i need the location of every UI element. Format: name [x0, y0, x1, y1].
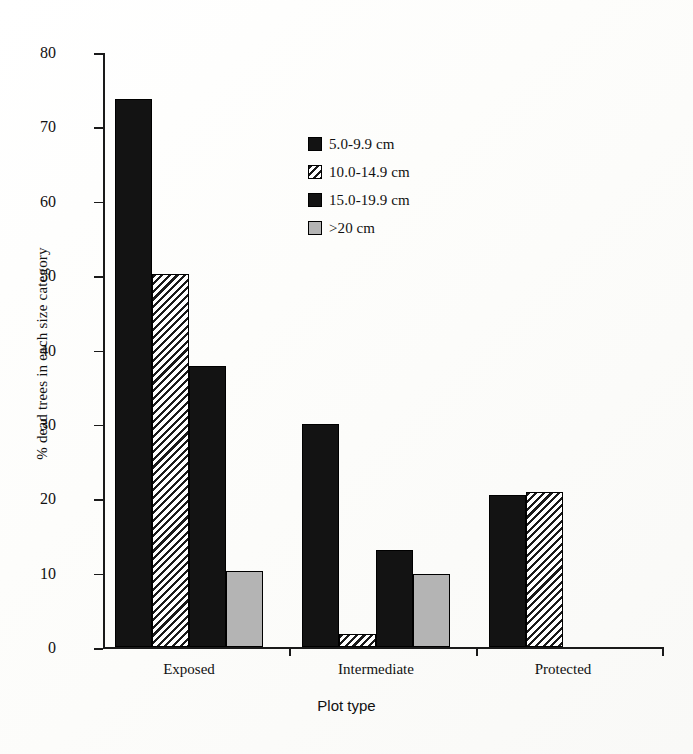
bar-protected-5.0-9.9: [489, 495, 526, 648]
x-axis-title: Plot type: [0, 697, 693, 714]
y-tick-20: [94, 499, 103, 501]
y-tick-50: [94, 276, 103, 278]
y-tick-0: [94, 648, 103, 650]
legend: 5.0-9.9 cm 10.0-14.9 cm 15.0-19.9 cm >20…: [308, 133, 410, 245]
bar-protected-10.0-14.9: [526, 492, 563, 647]
x-category-label-intermediate: Intermediate: [306, 661, 446, 678]
bar-chart-figure: % dead trees in each size category 80 70…: [0, 0, 693, 754]
x-category-label-exposed: Exposed: [119, 661, 259, 678]
y-tick-10: [94, 574, 103, 576]
y-tick-80: [94, 53, 103, 55]
bar-intermediate-15.0-19.9: [376, 550, 413, 647]
y-tick-label-0: 0: [10, 640, 56, 656]
y-tick-label-10: 10: [10, 566, 56, 582]
legend-label-3: 15.0-19.9 cm: [329, 192, 410, 209]
legend-label-1: 5.0-9.9 cm: [329, 136, 395, 153]
bar-intermediate-5.0-9.9: [302, 424, 339, 647]
bar-exposed-15.0-19.9: [189, 366, 226, 647]
x-tick-separator-2: [476, 647, 478, 656]
y-tick-30: [94, 425, 103, 427]
legend-item-2: 10.0-14.9 cm: [308, 161, 410, 183]
y-tick-label-20: 20: [10, 491, 56, 507]
legend-swatch-hatch-icon: [308, 165, 322, 179]
legend-swatch-solid-black-2-icon: [308, 193, 322, 207]
bar-exposed-over-20: [226, 571, 263, 647]
x-tick-separator-1: [289, 647, 291, 656]
bar-intermediate-10.0-14.9: [339, 634, 376, 647]
legend-swatch-solid-black-icon: [308, 137, 322, 151]
legend-label-4: >20 cm: [329, 220, 375, 237]
legend-swatch-light-gray-icon: [308, 221, 322, 235]
y-tick-40: [94, 351, 103, 353]
y-tick-70: [94, 127, 103, 129]
bar-intermediate-over-20: [413, 574, 450, 647]
x-axis-line: [103, 647, 664, 649]
y-tick-label-80: 80: [10, 45, 56, 61]
y-tick-label-70: 70: [10, 119, 56, 135]
legend-label-2: 10.0-14.9 cm: [329, 164, 410, 181]
y-tick-label-30: 30: [10, 417, 56, 433]
legend-item-1: 5.0-9.9 cm: [308, 133, 410, 155]
bar-exposed-10.0-14.9: [152, 274, 189, 647]
y-tick-label-50: 50: [10, 268, 56, 284]
y-tick-label-40: 40: [10, 343, 56, 359]
legend-item-4: >20 cm: [308, 217, 410, 239]
legend-item-3: 15.0-19.9 cm: [308, 189, 410, 211]
y-tick-60: [94, 202, 103, 204]
x-tick-separator-3: [662, 647, 664, 656]
y-axis-line: [103, 53, 105, 649]
x-category-label-protected: Protected: [493, 661, 633, 678]
y-tick-label-60: 60: [10, 194, 56, 210]
bar-exposed-5.0-9.9: [115, 99, 152, 647]
